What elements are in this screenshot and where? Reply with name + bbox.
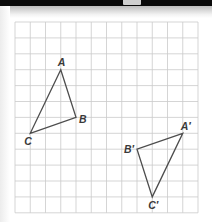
vertex-label-b-prime: B′ bbox=[124, 143, 135, 155]
grid-lines bbox=[15, 22, 198, 213]
vertex-label-a-prime: A′ bbox=[180, 120, 192, 132]
vertex-label-c-prime: C′ bbox=[148, 199, 159, 211]
coordinate-grid-figure: A B C A′ B′ C′ bbox=[0, 0, 212, 222]
vertex-label-b: B bbox=[79, 113, 87, 125]
vertex-label-a: A bbox=[57, 56, 66, 68]
vertex-label-c: C bbox=[24, 135, 32, 147]
